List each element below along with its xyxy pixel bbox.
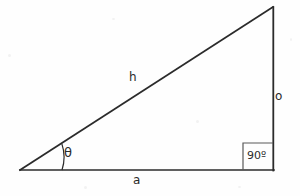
hypotenuse-line <box>20 7 273 170</box>
theta-angle-label: θ <box>64 146 72 159</box>
triangle-drawing <box>0 0 300 196</box>
right-angle-label: 90º <box>247 150 266 161</box>
opposite-label: o <box>275 90 282 102</box>
hypotenuse-label: h <box>129 71 137 83</box>
adjacent-label: a <box>133 174 140 186</box>
trigonometry-diagram: h o a θ 90º <box>0 0 300 196</box>
